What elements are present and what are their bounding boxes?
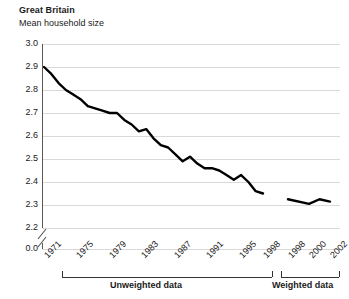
y-tick-label: 2.8: [14, 84, 38, 94]
axis-lines: [38, 44, 46, 249]
y-tick-label: 2.3: [14, 199, 38, 209]
y-tick-label: 2.4: [14, 176, 38, 186]
y-tick-label: 3.0: [14, 38, 38, 48]
y-tick-label: 2.2: [14, 222, 38, 232]
y-tick-label: 2.9: [14, 61, 38, 71]
y-tick-label: 2.6: [14, 130, 38, 140]
bracket-label-unweighted: Unweighted data: [110, 280, 182, 290]
data-series-lines: [44, 67, 330, 204]
y-tick-label: 0.0: [14, 243, 38, 253]
y-tick-label: 2.5: [14, 153, 38, 163]
bracket-label-weighted: Weighted data: [272, 280, 333, 290]
y-tick-label: 2.7: [14, 107, 38, 117]
bracket-marks: [62, 271, 339, 277]
gridlines: [42, 44, 340, 249]
